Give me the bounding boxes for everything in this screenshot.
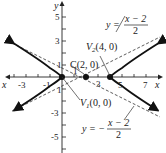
center-point (83, 74, 89, 80)
v2-label: V2(4, 0) (86, 41, 117, 54)
v1-label: V1(0, 0) (80, 97, 111, 110)
center-label: C(2, 0) (70, 59, 98, 71)
svg-text:y =: y = (105, 19, 120, 30)
lower-asymptote-equation: y = − x − 2 2 (81, 117, 131, 140)
upper-asymptote-equation: y = x − 2 2 (105, 13, 148, 36)
x-tick-label: 7 (143, 80, 148, 90)
y-tick-label: -5 (51, 132, 59, 142)
svg-text:2: 2 (116, 129, 121, 140)
svg-text:x − 2: x − 2 (124, 13, 146, 24)
y-ticks (62, 17, 66, 149)
y-tick-label: 5 (55, 12, 60, 22)
y-tick-label-small: 1 (57, 85, 62, 95)
y-tick-label: 3 (55, 36, 60, 46)
svg-text:y = −: y = − (81, 123, 105, 134)
hyperbola-chart: -3 -1 5 7 1 3 5 3 -3 -5 1 1 x x y C(2, 0… (0, 0, 166, 153)
y-tick-label: -3 (51, 108, 59, 118)
x-tick-label-small: 3 (96, 79, 101, 89)
x-axis-label: x (154, 79, 160, 90)
x-tick-label: -3 (18, 80, 26, 90)
svg-text:2: 2 (133, 25, 138, 36)
vertex-v2-point (107, 74, 113, 80)
svg-text:x − 2: x − 2 (107, 117, 129, 128)
y-tick-label-small: 1 (57, 60, 62, 70)
x-axis-label: x (1, 79, 7, 90)
y-axis-label: y (53, 0, 59, 11)
